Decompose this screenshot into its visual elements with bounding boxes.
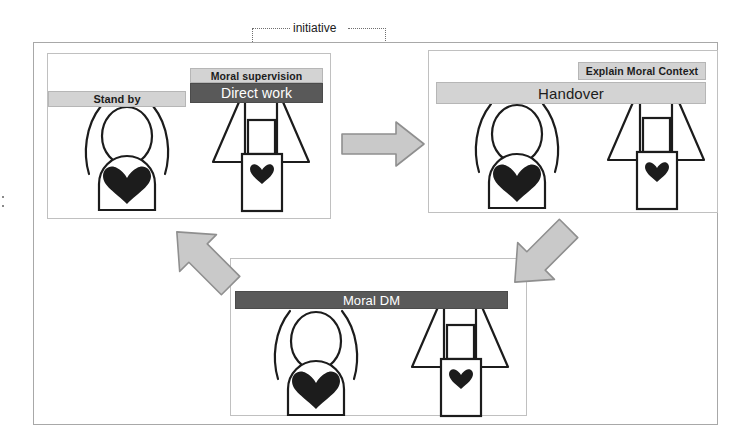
diagram-canvas: initiative Stand by Moral supervision Di… xyxy=(0,0,750,439)
arrow-standby-to-handover xyxy=(340,120,426,168)
label-bar-handover: Handover xyxy=(436,82,706,104)
arrow-moral-dm-to-standby xyxy=(160,218,246,298)
label-bar-moral-supervision: Moral supervision xyxy=(190,68,323,83)
scan-speck xyxy=(2,205,4,207)
initiative-dotted-line-left xyxy=(252,28,290,29)
initiative-annotation-label: initiative xyxy=(293,21,336,35)
scan-speck xyxy=(2,196,4,198)
arrow-handover-to-moral-dm xyxy=(498,216,584,296)
label-bar-moral-dm: Moral DM xyxy=(235,291,508,309)
panel-moral-dm xyxy=(230,258,527,416)
label-bar-stand-by: Stand by xyxy=(48,91,186,107)
label-bar-explain-moral-context: Explain Moral Context xyxy=(578,62,706,80)
label-bar-direct-work: Direct work xyxy=(190,83,323,103)
initiative-dotted-line-right xyxy=(348,28,386,29)
